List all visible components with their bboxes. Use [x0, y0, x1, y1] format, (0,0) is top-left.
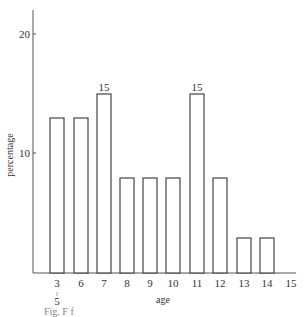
bar-label-11: 15 — [192, 81, 204, 93]
x-tick-label-13: 13 — [239, 277, 251, 289]
x-tick-label-6: 6 — [78, 277, 84, 289]
bar-12 — [213, 178, 227, 273]
bar-9 — [143, 178, 157, 273]
bar-6 — [74, 118, 88, 273]
x-tick-label-11: 11 — [192, 277, 203, 289]
y-tick-label-20: 20 — [19, 28, 31, 40]
bar-7 — [97, 94, 111, 273]
y-tick-label-10: 10 — [19, 147, 31, 159]
x-tick-label-9: 9 — [147, 277, 153, 289]
bar-label-7: 15 — [99, 81, 111, 93]
x-tick-label-7: 7 — [101, 277, 107, 289]
bar-11 — [190, 94, 204, 273]
y-axis-label: percentage — [4, 133, 15, 177]
x-tick-label-10: 10 — [168, 277, 180, 289]
x-tick-label-8: 8 — [124, 277, 130, 289]
x-tick-label-12: 12 — [215, 277, 226, 289]
figure-caption: Fig. F f — [44, 306, 74, 317]
x-tick-label-3: 3 — [54, 277, 60, 289]
bar-3-5 — [50, 118, 64, 273]
bar-10 — [166, 178, 180, 273]
bar-13 — [237, 238, 251, 273]
bars — [50, 94, 274, 273]
bar-8 — [120, 178, 134, 273]
x-axis-label: age — [156, 294, 170, 305]
x-tick-label-14: 14 — [262, 277, 274, 289]
bar-14 — [260, 238, 274, 273]
x-tick-label-15: 15 — [286, 277, 298, 289]
